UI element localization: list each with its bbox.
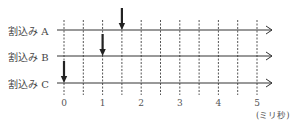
tick-label-5: 5 — [254, 98, 260, 108]
time-grid — [64, 20, 257, 95]
axis-unit-label: (ミリ秒) — [256, 108, 290, 120]
tick-label-3: 3 — [177, 98, 183, 108]
timeline-rows — [57, 26, 272, 87]
timeline-a — [57, 26, 272, 34]
down-arrow-icon — [61, 76, 67, 83]
row-label-a: 割込み A — [8, 23, 48, 38]
interrupt-arrow-a — [119, 8, 125, 30]
down-arrow-icon — [99, 49, 105, 56]
timeline-b — [57, 52, 272, 60]
tick-label-4: 4 — [216, 98, 222, 108]
interrupt-arrow-b — [99, 34, 105, 56]
row-label-b: 割込み B — [8, 49, 49, 64]
down-arrow-icon — [119, 23, 125, 30]
tick-label-1: 1 — [100, 98, 106, 108]
tick-label-0: 0 — [61, 98, 67, 108]
interrupt-arrow-c — [61, 61, 67, 83]
interrupt-arrows — [61, 8, 125, 83]
timeline-c — [57, 79, 272, 87]
row-label-c: 割込み C — [8, 76, 49, 91]
tick-label-2: 2 — [138, 98, 144, 108]
